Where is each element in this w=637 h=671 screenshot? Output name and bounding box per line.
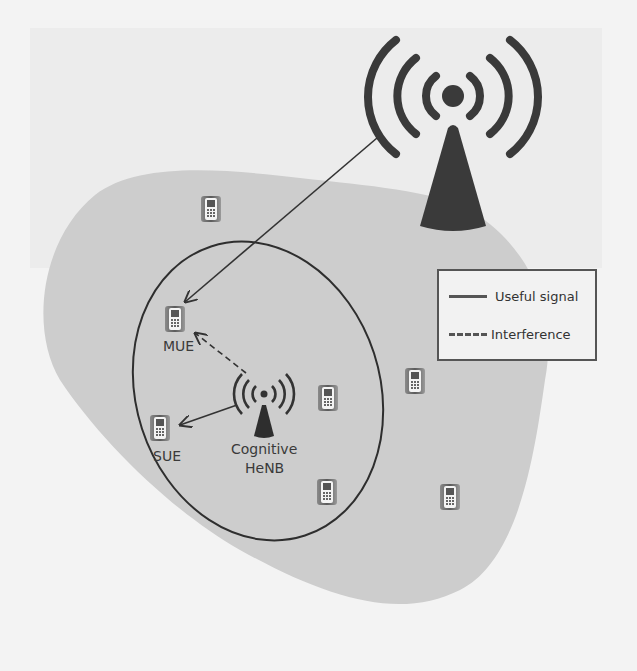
phone-icon-ue-5 <box>440 484 460 510</box>
henb-label-line1: Cognitive <box>231 441 297 457</box>
phone-icon-ue-3 <box>405 368 425 394</box>
legend-item-useful-signal: Useful signal <box>449 289 578 304</box>
dashed-line-swatch <box>449 333 487 336</box>
henb-label-line2: HeNB <box>245 460 284 476</box>
sue-phone-icon <box>150 415 170 441</box>
phone-icon-ue-1 <box>201 196 221 222</box>
phone-icon-ue-2 <box>318 385 338 411</box>
legend-useful-signal-label: Useful signal <box>495 289 578 304</box>
legend-interference-label: Interference <box>491 327 571 342</box>
sue-label: SUE <box>153 448 181 464</box>
mue-label: MUE <box>163 338 194 354</box>
mue-phone-icon <box>165 306 185 332</box>
diagram-canvas: eNB MUE SUE Cognitive HeNB Useful signal… <box>0 0 637 671</box>
legend-item-interference: Interference <box>449 327 571 342</box>
solid-line-swatch <box>449 295 487 298</box>
enb-label: eNB <box>430 205 473 229</box>
phone-icon-ue-4 <box>317 479 337 505</box>
legend-box: Useful signal Interference <box>437 269 597 361</box>
